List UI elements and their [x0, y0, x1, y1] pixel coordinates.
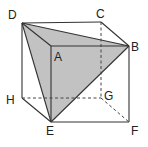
cube-diagram: D C A B H G E F: [0, 0, 148, 147]
label-b: B: [131, 40, 139, 54]
cube-svg: D C A B H G E F: [0, 0, 148, 147]
label-h: H: [6, 93, 15, 107]
label-d: D: [8, 8, 17, 22]
label-c: C: [96, 7, 105, 21]
label-e: E: [46, 124, 54, 138]
label-g: G: [104, 89, 113, 103]
label-a: A: [54, 50, 62, 64]
edge-dc: [22, 22, 101, 23]
shaded-triangle-dbe: [22, 23, 129, 122]
label-f: F: [131, 124, 138, 138]
